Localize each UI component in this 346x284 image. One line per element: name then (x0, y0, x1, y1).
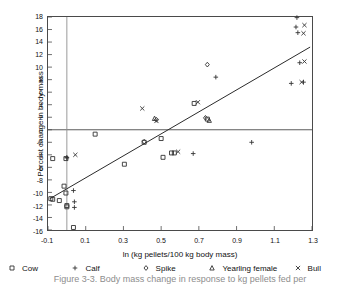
data-point-diamond (144, 266, 148, 271)
x-tick-label: 1.3 (308, 237, 318, 244)
legend-item-bull: Bull (292, 263, 321, 273)
figure-caption: Figure 3-3. Body mass change in response… (30, 274, 330, 284)
data-point-plus (71, 188, 76, 193)
diamond-marker-icon (140, 263, 152, 273)
legend-label: Cow (22, 264, 38, 273)
data-point-cross (140, 106, 144, 110)
data-point-triangle (210, 266, 214, 270)
data-point-square (172, 151, 176, 155)
legend-label: Spike (156, 264, 176, 273)
x-tick-label: 0.5 (156, 237, 166, 244)
data-point-plus (72, 200, 77, 205)
plot-area (47, 16, 313, 231)
legend-item-cow: Cow (6, 263, 38, 273)
data-point-square (122, 162, 126, 166)
data-point-cross (73, 153, 77, 157)
series-cow (49, 101, 209, 229)
data-point-square (62, 184, 66, 188)
data-point-square (10, 266, 14, 270)
series-calf (65, 15, 306, 209)
x-axis-title: ln (kg pellets/100 kg body mass) (47, 250, 313, 259)
x-tick-label: 0.7 (194, 237, 204, 244)
data-point-cross (302, 59, 306, 63)
data-point-square (51, 157, 55, 161)
data-point-plus (297, 60, 302, 65)
data-point-square (71, 226, 75, 230)
x-tick-label: -0.1 (41, 237, 53, 244)
data-point-plus (72, 205, 77, 210)
triangle-marker-icon (206, 263, 218, 273)
series-bull (73, 23, 306, 157)
data-point-plus (191, 151, 196, 156)
data-point-plus (214, 75, 219, 80)
data-point-square (159, 137, 163, 141)
legend-item-calf: Calf (69, 263, 99, 273)
data-point-diamond (205, 62, 209, 67)
data-point-plus (73, 266, 78, 271)
x-tick-label: 0.9 (232, 237, 242, 244)
x-tick-label: 0.1 (80, 237, 90, 244)
data-point-plus (294, 25, 299, 30)
legend-item-yearling-female: Yearling female (206, 263, 277, 273)
data-point-square (93, 132, 97, 136)
legend-label: Calf (85, 264, 99, 273)
legend-label: Bull (308, 264, 321, 273)
data-point-square (57, 199, 61, 203)
data-point-square (170, 151, 174, 155)
data-point-square (161, 155, 165, 159)
scatter-plot-canvas (48, 17, 312, 230)
x-tick-label: 0.3 (118, 237, 128, 244)
data-point-plus (296, 30, 301, 35)
data-point-square (192, 101, 196, 105)
data-point-cross (301, 31, 305, 35)
data-point-plus (295, 15, 300, 20)
plus-marker-icon (69, 263, 81, 273)
regression-line (50, 47, 310, 199)
chart-legend: CowCalfSpikeYearling femaleBull (6, 262, 340, 274)
data-point-cross (302, 23, 306, 27)
data-point-cross (295, 266, 299, 270)
x-tick-label: 1.1 (270, 237, 280, 244)
legend-item-spike: Spike (140, 263, 176, 273)
legend-label: Yearling female (222, 264, 277, 273)
data-point-plus (65, 155, 70, 160)
data-point-plus (289, 81, 294, 86)
data-point-plus (249, 140, 254, 145)
square-marker-icon (6, 263, 18, 273)
cross-marker-icon (292, 263, 304, 273)
